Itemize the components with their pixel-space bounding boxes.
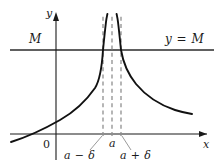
left-bound-label: a − δ bbox=[64, 150, 95, 161]
center-point-label-a: a bbox=[109, 138, 116, 149]
x-axis-label: x bbox=[203, 139, 209, 150]
m-level-label: M bbox=[29, 33, 41, 45]
origin-label: 0 bbox=[43, 139, 50, 150]
leader-line-a-plus-delta bbox=[122, 136, 131, 150]
curve-left-branch bbox=[11, 14, 107, 142]
leader-line-a-minus-delta bbox=[90, 136, 102, 150]
y-axis-label: y bbox=[46, 8, 52, 19]
right-bound-label: a + δ bbox=[120, 150, 151, 161]
x-axis-arrowhead bbox=[199, 131, 207, 137]
curve-right-branch bbox=[117, 14, 192, 114]
y-equals-m-label: y = M bbox=[165, 33, 204, 45]
limit-figure: y x M y = M 0 a a − δ a + δ bbox=[0, 0, 218, 167]
y-axis-arrowhead bbox=[53, 12, 59, 21]
